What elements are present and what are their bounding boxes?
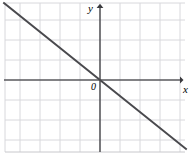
origin-label: 0 xyxy=(91,82,96,92)
axes xyxy=(4,4,184,152)
x-axis-label: x xyxy=(183,84,188,95)
y-axis-arrow-icon xyxy=(97,4,104,8)
plotted-line-series xyxy=(4,3,186,149)
graph-figure: y x 0 xyxy=(0,0,191,158)
y-axis-label: y xyxy=(88,3,93,14)
coordinate-plane xyxy=(0,0,191,158)
plot-line xyxy=(4,3,186,149)
